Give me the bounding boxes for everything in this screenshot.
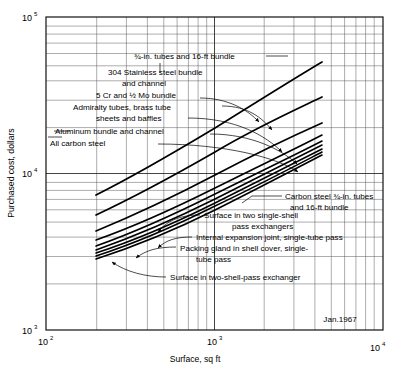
label-carbon-steel-tubes-line2: and 16-ft bundle: [290, 203, 349, 212]
label-two-single-shell-line2: pass exchangers: [232, 222, 293, 231]
y-tick-1e5: 10: [22, 13, 32, 23]
label-stainless-line2: and channel: [122, 79, 166, 88]
label-admiralty-line2: sheets and baffles: [96, 114, 162, 123]
y-axis-label: Purchased cost, dollars: [6, 128, 16, 217]
x-tick-1e4: 10: [370, 343, 380, 353]
label-carbon-steel-tubes-line1: Carbon steel ¾-in. tubes: [285, 192, 373, 201]
x-tick-1e3: 10: [207, 337, 217, 347]
label-two-single-shell-line1: Surface in two single-shell: [204, 211, 298, 220]
x-tick-1e2: 10: [38, 337, 48, 347]
label-packing-gland-line1: Packing gland in shell cover, single-: [180, 244, 309, 253]
y-tick-1e4: 10: [22, 169, 32, 179]
label-expansion-joint: Internal expansion joint, single-tube pa…: [196, 233, 343, 242]
label-two-shell-pass: Surface in two-shell-pass exchanger: [170, 273, 301, 282]
x-axis-label: Surface, sq ft: [170, 354, 221, 364]
label-admiralty-line1: Admiralty tubes, brass tube: [73, 103, 172, 112]
label-top-note: ¾-in. tubes and 16-ft bundle: [134, 52, 235, 61]
label-packing-gland-line2: tube pass: [196, 255, 231, 264]
label-aluminum: Aluminum bundle and channel: [55, 127, 164, 136]
label-stainless-line1: 304 Stainless steel bundle: [108, 68, 203, 77]
chart-svg: ¾-in. tubes and 16-ft bundle 304 Stainle…: [0, 0, 395, 372]
y-tick-1e3: 10: [22, 326, 32, 336]
date-note: Jan.1967: [323, 315, 357, 324]
label-cr-mo: 5 Cr and ½ Mo bundle: [96, 91, 177, 100]
chart-figure: ¾-in. tubes and 16-ft bundle 304 Stainle…: [0, 0, 395, 372]
label-all-carbon-steel: All carbon steel: [50, 139, 106, 148]
